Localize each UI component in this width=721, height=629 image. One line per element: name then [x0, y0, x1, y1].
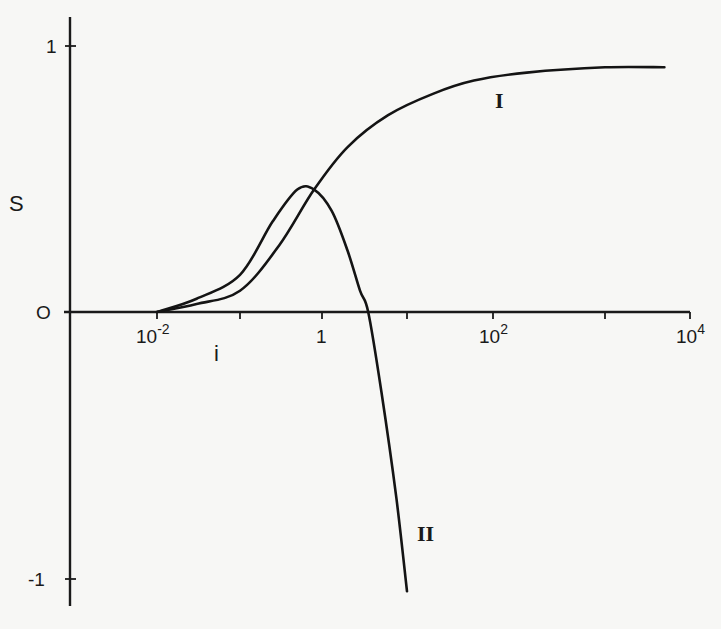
- x-tick-label-1e-2: 10-2: [136, 321, 170, 347]
- x-tick-label-1e4: 104: [676, 321, 705, 347]
- chart: 1 O -1 S i 10-2 1 102 104 I II: [0, 0, 721, 629]
- curve-I: [157, 67, 664, 312]
- x-tick-label-1: 1: [316, 326, 327, 347]
- curve-label-I: I: [495, 88, 504, 113]
- curve-II: [157, 186, 407, 591]
- x-axis-label: i: [214, 341, 219, 366]
- y-tick-label-0: O: [36, 302, 51, 323]
- curve-label-II: II: [417, 521, 434, 546]
- y-tick-label-1: 1: [46, 36, 57, 57]
- x-tick-label-1e2: 102: [479, 321, 508, 347]
- y-tick-label-m1: -1: [28, 569, 45, 590]
- y-axis-label: S: [9, 191, 24, 216]
